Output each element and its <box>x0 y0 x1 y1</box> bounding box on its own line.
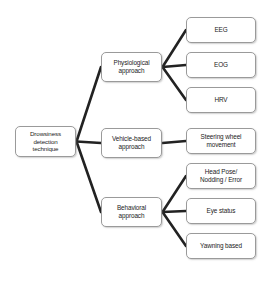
node-yawning-based[interactable]: Yawning based <box>186 233 256 259</box>
edge-vehicle-to-steering <box>163 141 187 143</box>
node-physiological-approach[interactable]: Physiological approach <box>101 52 162 82</box>
node-label: Head Pose/ Nodding / Error <box>187 168 255 184</box>
edge-root-to-physiological <box>77 67 102 142</box>
edge-physiological-to-hrv <box>163 67 187 100</box>
node-label: Vehicle-based approach <box>102 135 161 151</box>
node-label: EOG <box>187 61 255 69</box>
node-label: Behavioral approach <box>102 204 161 220</box>
node-label: HRV <box>187 96 255 104</box>
node-hrv[interactable]: HRV <box>186 87 256 113</box>
node-label: Steering wheel movement <box>187 133 255 149</box>
node-head-pose-nodding-error[interactable]: Head Pose/ Nodding / Error <box>186 163 256 189</box>
node-label: Eye status <box>187 207 255 215</box>
edge-physiological-to-eeg <box>163 30 187 67</box>
edge-root-to-vehicle <box>77 142 102 144</box>
node-eeg[interactable]: EEG <box>186 17 256 43</box>
node-vehicle-based-approach[interactable]: Vehicle-based approach <box>101 128 162 158</box>
node-eog[interactable]: EOG <box>186 52 256 78</box>
node-label: EEG <box>187 26 255 34</box>
edge-behavioral-to-headpose <box>163 176 187 212</box>
node-label: Drowsiness detection technique <box>16 130 75 153</box>
edge-behavioral-to-yawning <box>163 212 187 246</box>
diagram-canvas: Drowsiness detection technique Physiolog… <box>0 0 266 282</box>
node-label: Physiological approach <box>102 59 161 75</box>
edge-root-to-behavioral <box>77 142 102 213</box>
edge-behavioral-to-eye <box>163 211 187 212</box>
node-eye-status[interactable]: Eye status <box>186 198 256 224</box>
edge-physiological-to-eog <box>163 65 187 67</box>
node-drowsiness-detection-technique[interactable]: Drowsiness detection technique <box>15 126 76 157</box>
node-behavioral-approach[interactable]: Behavioral approach <box>101 197 162 227</box>
node-label: Yawning based <box>187 242 255 250</box>
node-steering-wheel-movement[interactable]: Steering wheel movement <box>186 128 256 154</box>
